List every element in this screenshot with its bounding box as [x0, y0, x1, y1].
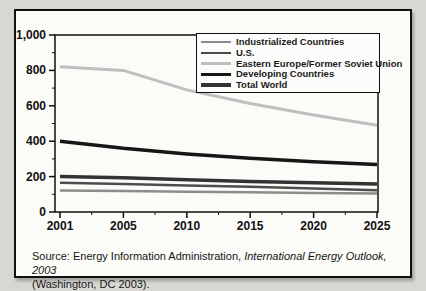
x-axis-tick-label: 2001 [47, 219, 74, 233]
y-axis-tick-label: 600 [26, 99, 46, 113]
legend-item: Industrialized Countries [201, 37, 376, 47]
legend-label: Eastern Europe/Former Soviet Union [236, 59, 402, 69]
source-note: Source: Energy Information Administratio… [32, 249, 404, 291]
legend-item: U.S. [201, 48, 376, 58]
source-line-1: Source: Energy Information Administratio… [32, 249, 404, 277]
legend-swatch [201, 62, 231, 65]
chart-legend: Industrialized CountriesU.S.Eastern Euro… [196, 33, 380, 93]
legend-label: Industrialized Countries [236, 37, 344, 47]
series-line [60, 141, 377, 164]
legend-item: Total World [201, 80, 376, 90]
legend-swatch [201, 52, 231, 55]
y-axis-tick-label: 800 [26, 63, 46, 77]
x-axis-tick-label: 2015 [237, 219, 264, 233]
series-line [60, 190, 377, 193]
x-axis-tick-label: 2020 [300, 219, 327, 233]
source-text-normal: Source: Energy Information Administratio… [32, 250, 244, 262]
legend-swatch [201, 73, 231, 77]
y-axis-tick-label: 1,000 [16, 28, 46, 42]
x-axis-tick-label: 2005 [110, 219, 137, 233]
legend-label: Total World [236, 80, 287, 90]
x-axis-tick-label: 2025 [364, 219, 391, 233]
y-axis-tick-label: 0 [39, 205, 46, 219]
legend-swatch [201, 41, 231, 44]
legend-label: U.S. [236, 48, 254, 58]
figure-frame: 02004006008001,0002001200520102015202020… [14, 9, 412, 278]
x-axis-tick-label: 2010 [173, 219, 200, 233]
y-axis-tick-label: 400 [26, 134, 46, 148]
legend-item: Eastern Europe/Former Soviet Union [201, 59, 376, 69]
legend-label: Developing Countries [236, 69, 334, 79]
source-line-2: (Washington, DC 2003). [32, 277, 404, 291]
legend-swatch [201, 83, 231, 87]
legend-item: Developing Countries [201, 69, 376, 79]
figure-inner: 02004006008001,0002001200520102015202020… [16, 11, 410, 276]
y-axis-tick-label: 200 [26, 170, 46, 184]
